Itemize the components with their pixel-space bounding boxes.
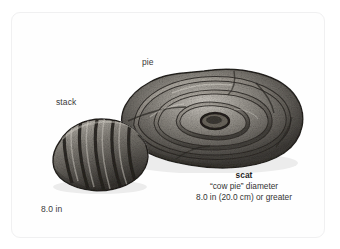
- caption-title: scat: [160, 170, 328, 181]
- caption-line-1: “cow pie” diameter: [160, 181, 328, 192]
- label-pie: pie: [142, 57, 154, 67]
- scale-label: 8.0 in: [41, 204, 62, 214]
- stack-scat-illustration: [42, 113, 154, 195]
- caption-line-2: 8.0 in (20.0 cm) or greater: [160, 192, 328, 203]
- scat-caption: scat “cow pie” diameter 8.0 in (20.0 cm)…: [160, 170, 328, 204]
- figure-card: pie stack 8.0 in scat “cow pie” diameter…: [11, 12, 325, 238]
- label-stack: stack: [56, 97, 76, 107]
